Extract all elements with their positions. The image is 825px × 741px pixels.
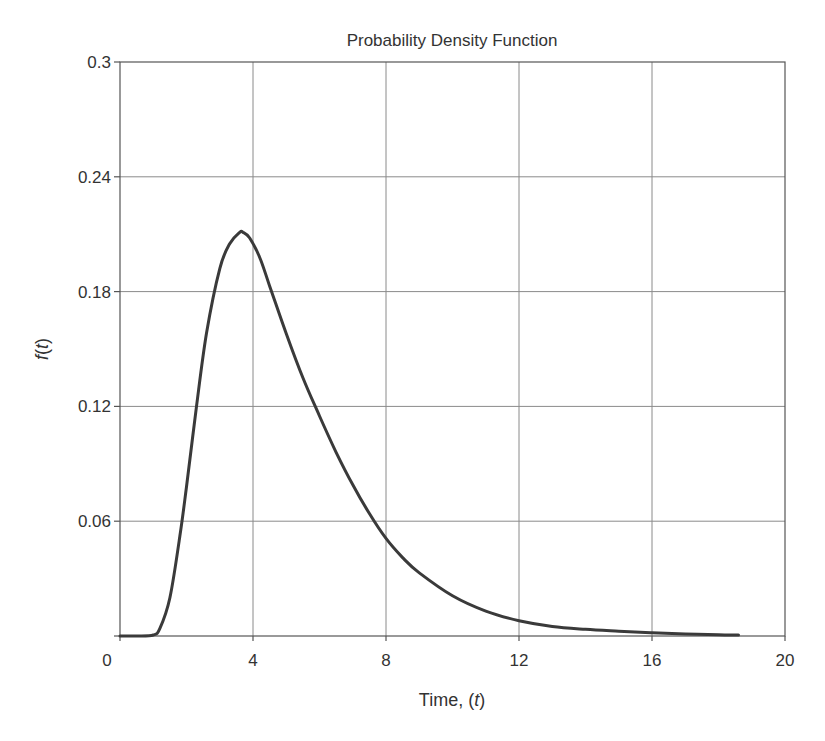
x-tick-label: 0: [102, 651, 111, 670]
y-axis-ticks: 0.060.120.180.240.3: [78, 53, 120, 636]
x-tick-label: 20: [776, 651, 795, 670]
x-tick-label: 16: [643, 651, 662, 670]
y-tick-label: 0.06: [78, 512, 111, 531]
y-tick-label: 0.12: [78, 397, 111, 416]
y-tick-label: 0.3: [87, 53, 111, 72]
x-tick-label: 8: [381, 651, 390, 670]
y-tick-label: 0.24: [78, 168, 111, 187]
plot-frame: [120, 62, 785, 636]
x-tick-label: 12: [510, 651, 529, 670]
chart-title: Probability Density Function: [347, 31, 558, 50]
x-tick-label: 4: [248, 651, 257, 670]
y-axis-label: f(t): [32, 338, 52, 360]
pdf-chart: Probability Density Function 0.060.120.1…: [0, 0, 825, 741]
y-tick-label: 0.18: [78, 283, 111, 302]
x-axis-ticks: 048121620: [102, 636, 794, 670]
x-axis-label: Time, (t): [419, 690, 485, 710]
grid-lines: [120, 62, 785, 636]
